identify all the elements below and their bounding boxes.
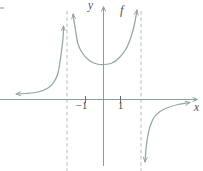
curve-right-branch — [145, 103, 190, 163]
function-label: f — [120, 4, 123, 17]
tick-label-neg1: −1 — [76, 101, 87, 112]
y-axis-label: y — [88, 0, 93, 12]
tick-label-pos1: 1 — [118, 101, 123, 112]
graph-canvas — [0, 0, 203, 171]
x-axis-label: x — [194, 102, 199, 114]
cropped-edge-artifact — [0, 7, 4, 9]
function-graph-figure: y f x −1 1 — [0, 0, 203, 171]
curve-left-branch — [16, 26, 64, 94]
curve-middle-branch — [73, 10, 137, 65]
